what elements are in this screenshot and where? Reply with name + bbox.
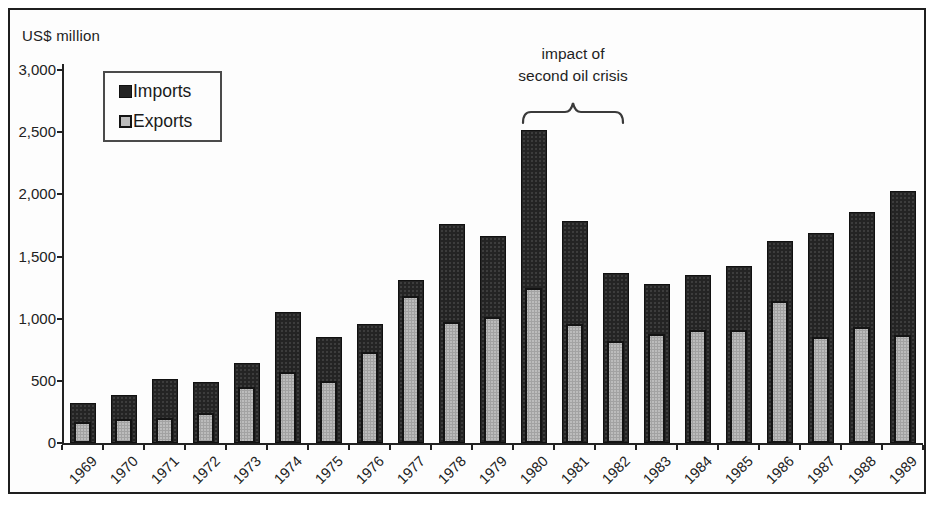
chart-figure: US$ million 05001,0001,5002,0002,5003,00… bbox=[0, 0, 937, 512]
y-axis-tick bbox=[57, 380, 64, 382]
x-axis-tick bbox=[881, 445, 883, 450]
exports-bar bbox=[771, 301, 788, 443]
legend-exports-label: Exports bbox=[133, 111, 192, 132]
x-axis-tick bbox=[840, 445, 842, 450]
annotation-line1: impact of bbox=[487, 43, 659, 65]
legend-item-exports: Exports bbox=[119, 111, 220, 132]
x-axis-tick bbox=[512, 445, 514, 450]
exports-bar bbox=[689, 330, 706, 443]
x-axis-tick bbox=[594, 445, 596, 450]
brace-icon bbox=[521, 98, 625, 126]
exports-bar bbox=[361, 352, 378, 443]
legend-item-imports: Imports bbox=[119, 81, 220, 102]
exports-bar bbox=[730, 330, 747, 443]
x-axis-tick bbox=[348, 445, 350, 450]
exports-bar bbox=[853, 327, 870, 443]
x-axis-tick bbox=[61, 445, 63, 450]
exports-bar bbox=[525, 288, 542, 443]
exports-bar bbox=[156, 418, 173, 443]
x-axis-tick bbox=[635, 445, 637, 450]
x-axis-tick bbox=[389, 445, 391, 450]
x-axis-tick bbox=[799, 445, 801, 450]
x-axis-tick bbox=[922, 445, 924, 450]
x-axis-tick bbox=[143, 445, 145, 450]
exports-bar bbox=[197, 413, 214, 443]
exports-bar bbox=[484, 317, 501, 443]
y-axis-tick bbox=[57, 131, 64, 133]
imports-swatch-icon bbox=[119, 85, 132, 98]
y-axis-tick-label: 1,000 bbox=[10, 310, 56, 327]
exports-bar bbox=[74, 422, 91, 443]
exports-bar bbox=[238, 387, 255, 443]
y-axis-tick-label: 2,000 bbox=[10, 185, 56, 202]
y-axis-title: US$ million bbox=[22, 27, 100, 44]
x-axis-line bbox=[62, 443, 923, 445]
x-axis-tick bbox=[225, 445, 227, 450]
y-axis-tick bbox=[57, 69, 64, 71]
exports-bar bbox=[566, 324, 583, 443]
x-axis-tick bbox=[758, 445, 760, 450]
y-axis-tick-label: 2,500 bbox=[10, 123, 56, 140]
exports-bar bbox=[115, 419, 132, 443]
x-axis-tick bbox=[184, 445, 186, 450]
x-axis-tick bbox=[676, 445, 678, 450]
exports-bar bbox=[279, 372, 296, 443]
y-axis-tick-label: 3,000 bbox=[10, 61, 56, 78]
y-axis-tick bbox=[57, 318, 64, 320]
exports-bar bbox=[607, 341, 624, 443]
legend: Imports Exports bbox=[103, 71, 222, 142]
x-axis-tick bbox=[307, 445, 309, 450]
y-axis-tick-label: 500 bbox=[10, 372, 56, 389]
exports-bar bbox=[320, 381, 337, 443]
exports-bar bbox=[443, 322, 460, 443]
exports-bar bbox=[648, 334, 665, 443]
legend-imports-label: Imports bbox=[133, 81, 191, 102]
y-axis-tick bbox=[57, 256, 64, 258]
y-axis-tick-label: 0 bbox=[10, 434, 56, 451]
y-axis-tick-label: 1,500 bbox=[10, 248, 56, 265]
exports-bar bbox=[402, 296, 419, 443]
annotation-text: impact of second oil crisis bbox=[487, 43, 659, 87]
x-axis-tick bbox=[430, 445, 432, 450]
x-axis-tick bbox=[471, 445, 473, 450]
annotation-line2: second oil crisis bbox=[487, 65, 659, 87]
y-axis-tick bbox=[57, 442, 64, 444]
exports-bar bbox=[812, 337, 829, 443]
y-axis-tick bbox=[57, 193, 64, 195]
exports-swatch-icon bbox=[119, 115, 132, 128]
x-axis-tick bbox=[266, 445, 268, 450]
x-axis-tick bbox=[553, 445, 555, 450]
exports-bar bbox=[894, 335, 911, 443]
y-axis-line bbox=[62, 64, 64, 444]
x-axis-tick bbox=[717, 445, 719, 450]
x-axis-tick bbox=[102, 445, 104, 450]
